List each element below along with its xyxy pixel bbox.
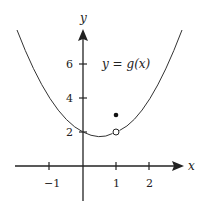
x-axis-label: x bbox=[188, 159, 195, 173]
curve-label: y = g(x) bbox=[101, 57, 151, 71]
y-tick-label-6: 6 bbox=[66, 58, 73, 71]
open-point bbox=[113, 129, 119, 135]
filled-point bbox=[114, 113, 119, 118]
y-tick-label-4: 4 bbox=[66, 92, 73, 105]
curve-g bbox=[17, 30, 182, 137]
y-axis-label: y bbox=[79, 11, 87, 25]
y-tick-label-2: 2 bbox=[66, 126, 73, 139]
x-tick-label-minus1: −1 bbox=[44, 177, 60, 190]
x-tick-label-1: 1 bbox=[113, 177, 120, 190]
x-tick-label-2: 2 bbox=[146, 177, 153, 190]
graph: y x y = g(x) −1 1 2 6 4 2 bbox=[0, 0, 203, 213]
